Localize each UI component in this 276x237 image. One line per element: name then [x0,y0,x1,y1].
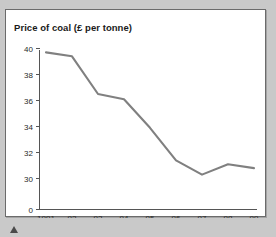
coal-price-line [46,52,254,174]
y-tick-label: 36 [24,97,33,106]
y-tick-labels: 40 38 36 34 32 30 0 [24,45,33,215]
x-tick-label: 98 [224,214,233,218]
line-chart-svg: 40 38 36 34 32 30 0 1991 92 93 [6,10,267,218]
chart-panel: Price of coal (£ per tonne) 40 [5,9,266,217]
screenshot-root: Price of coal (£ per tonne) 40 [0,0,276,237]
x-axis: 1991 92 93 94 95 96 97 98 99 [37,210,259,219]
x-tick-label: 94 [120,214,129,218]
triangle-marker [10,226,18,233]
y-axis: 40 38 36 34 32 30 0 [24,45,39,215]
x-tick-label: 95 [146,214,155,218]
x-tick-label: 1991 [37,214,55,218]
x-tick-labels: 1991 92 93 94 95 96 97 98 99 [37,214,259,218]
x-tick-label: 93 [94,214,103,218]
y-tick-marks [36,49,40,210]
y-tick-label: 32 [24,149,33,158]
x-tick-label: 99 [250,214,259,218]
x-tick-label: 96 [172,214,181,218]
x-tick-label: 97 [198,214,207,218]
y-tick-label: 30 [24,175,33,184]
plot-area: 40 38 36 34 32 30 0 1991 92 93 [6,10,267,218]
x-tick-label: 92 [68,214,77,218]
y-tick-label: 34 [24,123,33,132]
y-tick-label: 0 [29,206,34,215]
y-tick-label: 40 [24,45,33,54]
y-tick-label: 38 [24,71,33,80]
